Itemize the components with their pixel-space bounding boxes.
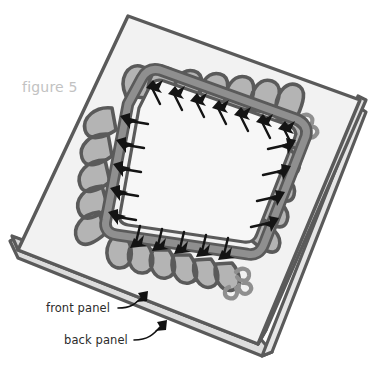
back-panel-label: back panel [64, 333, 128, 347]
figure-caption: figure 5 [22, 79, 78, 95]
callout-back-panel: back panel [64, 320, 167, 347]
pillow-construction-illustration: figure 5 front panel back panel [0, 0, 382, 367]
front-panel-label: front panel [46, 301, 110, 315]
figure-illustration-root: figure 5 front panel back panel [0, 0, 382, 367]
